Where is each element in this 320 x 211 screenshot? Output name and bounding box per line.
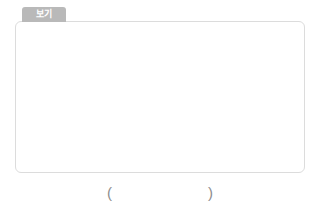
answer-close-paren: ) — [208, 184, 213, 201]
boki-tab: 보기 — [22, 7, 66, 22]
boki-tab-label: 보기 — [36, 10, 53, 19]
answer-line: ( ) — [0, 180, 320, 204]
answer-open-paren: ( — [107, 184, 112, 201]
examples-panel — [15, 21, 305, 173]
